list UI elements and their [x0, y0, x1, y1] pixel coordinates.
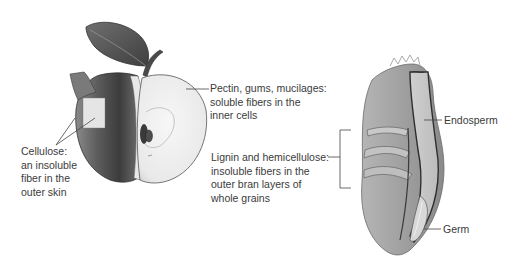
germ-label-text: Germ — [443, 223, 469, 237]
apple-seed — [146, 130, 153, 142]
fiber-sources-diagram: Cellulose: an insoluble fiber in the out… — [0, 0, 516, 265]
cellulose-label: Cellulose: an insoluble fiber in the out… — [21, 145, 77, 199]
illustration — [0, 0, 516, 265]
apple-illustration — [70, 22, 207, 183]
grain-illustration — [362, 55, 444, 255]
pectin-label-line: soluble fibers in the — [210, 96, 327, 110]
endosperm-label: Endosperm — [444, 114, 498, 128]
endosperm-label-text: Endosperm — [444, 114, 498, 128]
lignin-bracket — [340, 130, 351, 188]
lignin-label-line: whole grains — [211, 192, 329, 206]
apple-exposed-patch — [83, 98, 105, 128]
lignin-label-line: Lignin and hemicellulose: — [211, 151, 329, 165]
lignin-label-line: insoluble fibers in the — [211, 165, 329, 179]
apple-leaf — [86, 22, 149, 66]
lignin-label-line: outer bran layers of — [211, 178, 329, 192]
pectin-label: Pectin, gums, mucilages: soluble fibers … — [210, 82, 327, 123]
pectin-label-line: inner cells — [210, 109, 327, 123]
cellulose-label-line: fiber in the — [21, 172, 77, 186]
apple-flesh-half — [137, 75, 206, 183]
pectin-label-line: Pectin, gums, mucilages: — [210, 82, 327, 96]
lignin-hemicellulose-label: Lignin and hemicellulose: insoluble fibe… — [211, 151, 329, 205]
cellulose-label-line: an insoluble — [21, 159, 77, 173]
cellulose-label-line: Cellulose: — [21, 145, 77, 159]
cellulose-label-line: outer skin — [21, 186, 77, 200]
germ-label: Germ — [443, 223, 469, 237]
cellulose-leader-a — [56, 118, 75, 145]
